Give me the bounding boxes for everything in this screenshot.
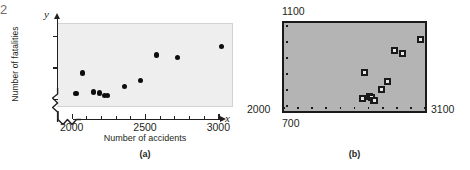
y-tick-dot xyxy=(286,57,288,59)
data-point xyxy=(138,78,143,83)
y-tick-dot xyxy=(286,25,288,27)
x-tick-dot xyxy=(410,107,412,109)
panel-a-plot-box xyxy=(57,23,233,107)
y-tick-mark xyxy=(53,67,58,68)
data-point xyxy=(105,93,110,98)
panel-a-y-axis-line xyxy=(57,18,58,90)
x-tick-dot xyxy=(297,107,299,109)
data-point xyxy=(391,47,398,54)
x-tick-mark-minor xyxy=(160,116,161,119)
x-tick-mark xyxy=(145,114,146,119)
x-tick-mark-minor xyxy=(116,116,117,119)
data-point xyxy=(73,91,78,96)
panel-a-y-axis-arrow-icon xyxy=(54,13,60,19)
x-tick-dot xyxy=(354,107,356,109)
x-tick-dot xyxy=(382,107,384,109)
data-point xyxy=(154,52,159,57)
panel-a-plot-area xyxy=(57,24,232,106)
y-tick-dot xyxy=(286,41,288,43)
x-tick-label: 2500 xyxy=(125,121,165,133)
y-tick-dot xyxy=(286,105,288,107)
x-tick-label: 3000 xyxy=(198,121,238,133)
x-tick-mark xyxy=(72,114,73,119)
x-tick-dot xyxy=(283,107,285,109)
y-tick-mark xyxy=(53,99,58,100)
data-point xyxy=(384,78,391,85)
data-point xyxy=(371,97,378,104)
panel-a-y-axis-title: Number of fatalities xyxy=(10,17,24,112)
x-tick-mark xyxy=(218,114,219,119)
panel-b-caption: (b) xyxy=(282,149,427,159)
panel-b-window-ymin: 2000 xyxy=(247,103,270,115)
x-tick-mark-minor xyxy=(189,116,190,119)
data-point xyxy=(361,69,368,76)
panel-b-window-xmin: 700 xyxy=(282,117,300,129)
data-point xyxy=(359,95,366,102)
x-tick-label: 2000 xyxy=(52,121,92,133)
x-tick-dot xyxy=(311,107,313,109)
data-point xyxy=(417,36,424,43)
panel-a-caption: (a) xyxy=(57,149,233,159)
x-tick-mark-minor xyxy=(101,116,102,119)
y-tick-mark xyxy=(53,36,58,37)
data-point xyxy=(91,89,96,94)
data-point xyxy=(399,50,406,57)
figure-container: 2 Number of fatalities y x 7009001100 20… xyxy=(0,0,470,170)
panel-a-x-axis-title: Number of accidents xyxy=(57,133,233,143)
panel-a-y-axis-symbol: y xyxy=(44,8,49,20)
x-tick-dot xyxy=(368,107,370,109)
panel-b: 1100 2000 700 3100 (b) xyxy=(235,0,470,170)
x-tick-mark-minor xyxy=(204,116,205,119)
calculator-screen xyxy=(282,21,427,113)
x-tick-mark-minor xyxy=(86,116,87,119)
x-tick-dot xyxy=(340,107,342,109)
x-tick-dot xyxy=(396,107,398,109)
data-point xyxy=(122,84,127,89)
data-point xyxy=(80,70,85,75)
data-point xyxy=(378,86,385,93)
y-tick-dot xyxy=(286,73,288,75)
panel-a-x-axis-line xyxy=(73,119,221,120)
panel-b-plot-area xyxy=(284,23,425,111)
panel-b-window-ymax: 1100 xyxy=(282,5,305,17)
x-tick-dot xyxy=(325,107,327,109)
x-tick-mark-minor xyxy=(130,116,131,119)
panel-a: Number of fatalities y x 7009001100 2000… xyxy=(0,0,235,170)
y-tick-dot xyxy=(286,89,288,91)
x-tick-dot xyxy=(424,107,426,109)
x-tick-mark-minor xyxy=(174,116,175,119)
data-point xyxy=(175,55,180,60)
data-point xyxy=(219,44,224,49)
panel-b-window-xmax: 3100 xyxy=(431,103,454,115)
